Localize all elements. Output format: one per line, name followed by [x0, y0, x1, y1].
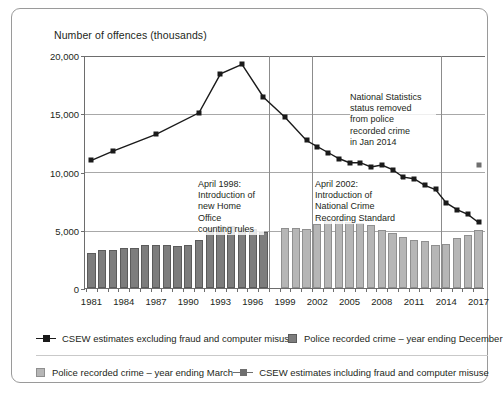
- x-axis-tick: [258, 288, 259, 292]
- data-point: [465, 212, 470, 217]
- y-axis-tick-label: 5,000: [55, 225, 79, 236]
- legend-item-prc-december[interactable]: Police recorded crime – year ending Dece…: [288, 327, 503, 349]
- legend-label: CSEW estimates excluding fraud and compu…: [62, 333, 294, 344]
- legend-label: CSEW estimates including fraud and compu…: [259, 367, 489, 378]
- y-axis-tick-label: 15,000: [50, 109, 79, 120]
- data-point: [476, 220, 481, 225]
- x-axis-tick: [151, 288, 152, 292]
- x-axis-tick: [473, 288, 474, 292]
- data-point: [347, 160, 352, 165]
- x-axis-tick: [312, 288, 313, 292]
- data-point: [433, 187, 438, 192]
- x-axis-tick-label: 2005: [339, 296, 360, 307]
- x-axis-tick: [355, 288, 356, 292]
- x-axis-tick: [344, 288, 345, 292]
- data-point: [153, 132, 158, 137]
- data-point: [110, 149, 115, 154]
- x-axis-tick: [86, 288, 87, 292]
- data-point: [89, 158, 94, 163]
- y-axis-tick: [81, 289, 85, 290]
- x-axis-tick: [290, 288, 291, 292]
- x-axis-tick: [398, 288, 399, 292]
- chart-legend: CSEW estimates excluding fraud and compu…: [36, 327, 488, 385]
- line-marker-icon: [233, 368, 253, 377]
- x-axis-tick: [301, 288, 302, 292]
- y-axis-tick-label: 0: [74, 284, 79, 295]
- x-axis-tick: [247, 288, 248, 292]
- x-axis-tick: [118, 288, 119, 292]
- y-axis-tick: [81, 56, 85, 57]
- chart-card: Number of offences (thousands) 05,00010,…: [11, 8, 488, 383]
- data-point: [476, 163, 481, 168]
- annotation-1998: April 1998: Introduction of new Home Off…: [198, 179, 264, 235]
- x-axis-tick-label: 1996: [242, 296, 263, 307]
- annotation-2002: April 2002: Introduction of National Cri…: [315, 179, 401, 224]
- x-axis-tick: [226, 288, 227, 292]
- y-axis-tick-label: 10,000: [50, 167, 79, 178]
- legend-label: Police recorded crime – year ending Marc…: [52, 367, 233, 378]
- x-axis-tick: [269, 288, 270, 292]
- data-point: [336, 156, 341, 161]
- x-axis-tick: [462, 288, 463, 292]
- x-axis-tick-label: 1999: [274, 296, 295, 307]
- y-axis-tick: [81, 231, 85, 232]
- legend-divider: [36, 355, 488, 356]
- x-axis-tick-label: 2017: [468, 296, 489, 307]
- square-marker-icon: [36, 368, 45, 377]
- legend-item-csew-including[interactable]: CSEW estimates including fraud and compu…: [233, 361, 489, 383]
- x-axis-tick: [183, 288, 184, 292]
- data-point: [239, 62, 244, 67]
- x-axis-tick: [140, 288, 141, 292]
- x-axis-tick: [430, 288, 431, 292]
- data-point: [261, 95, 266, 100]
- x-axis-tick: [161, 288, 162, 292]
- legend-item-csew-excluding[interactable]: CSEW estimates excluding fraud and compu…: [36, 327, 288, 349]
- data-point: [422, 183, 427, 188]
- x-axis-tick: [172, 288, 173, 292]
- y-axis-tick: [81, 114, 85, 115]
- data-point: [196, 110, 201, 115]
- x-axis-tick: [323, 288, 324, 292]
- data-point: [326, 150, 331, 155]
- data-point: [283, 115, 288, 120]
- plot-area: 05,00010,00015,00020,000 198119841987199…: [84, 56, 484, 289]
- x-axis-tick-label: 2014: [436, 296, 457, 307]
- line-series-csew: [85, 56, 485, 289]
- data-point: [315, 144, 320, 149]
- data-point: [401, 175, 406, 180]
- y-axis-tick-label: 20,000: [50, 51, 79, 62]
- x-axis-tick-label: 1987: [145, 296, 166, 307]
- y-axis-tick: [81, 173, 85, 174]
- data-point: [390, 167, 395, 172]
- line-marker-icon: [36, 334, 56, 343]
- legend-item-prc-march[interactable]: Police recorded crime – year ending Marc…: [36, 361, 233, 383]
- x-axis-tick: [419, 288, 420, 292]
- x-axis-tick: [194, 288, 195, 292]
- x-axis-tick: [280, 288, 281, 292]
- x-axis-tick-label: 2008: [371, 296, 392, 307]
- x-axis-tick: [333, 288, 334, 292]
- x-axis-tick-label: 1981: [81, 296, 102, 307]
- annotation-2014: National Statistics status removed from …: [350, 92, 436, 148]
- x-axis-tick-label: 1984: [113, 296, 134, 307]
- data-point: [304, 138, 309, 143]
- x-axis-tick: [237, 288, 238, 292]
- x-axis-tick: [441, 288, 442, 292]
- x-axis-tick: [409, 288, 410, 292]
- data-point: [369, 164, 374, 169]
- x-axis-tick: [387, 288, 388, 292]
- x-axis-tick-label: 1993: [210, 296, 231, 307]
- data-point: [218, 71, 223, 76]
- x-axis-tick: [97, 288, 98, 292]
- x-axis-tick: [215, 288, 216, 292]
- x-axis-tick: [376, 288, 377, 292]
- x-axis-tick: [108, 288, 109, 292]
- x-axis-tick: [452, 288, 453, 292]
- data-point: [412, 176, 417, 181]
- data-point: [444, 200, 449, 205]
- x-axis-tick-label: 2011: [404, 296, 424, 307]
- data-point: [379, 163, 384, 168]
- x-axis-tick: [366, 288, 367, 292]
- data-point: [358, 160, 363, 165]
- legend-label: Police recorded crime – year ending Dece…: [304, 333, 503, 344]
